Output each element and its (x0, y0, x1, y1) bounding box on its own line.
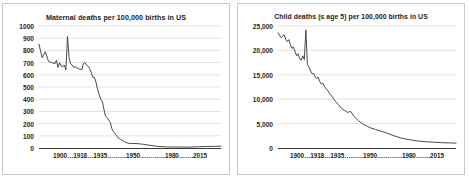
y-axis-tick-label: 400 (23, 96, 34, 103)
chart-panel-maternal: Maternal deaths per 100,000 births in US… (2, 3, 230, 175)
gridlines-maternal (39, 26, 221, 136)
x-axis-line-child (278, 148, 456, 149)
y-axis-labels-child: 25,00020,00015,00010,0005,0000 (238, 26, 275, 148)
y-axis-tick-label: 200 (23, 120, 34, 127)
x-axis-labels-maternal: 1900…1918…1935………1950…………1980…….2015 (33, 152, 227, 159)
x-axis-labels-child: 1900…1918…1935………1950…………1980…….2015 (272, 152, 462, 159)
x-axis-line-maternal (39, 148, 221, 149)
chart-panel-child: Child deaths (≤ age 5) per 100,000 birth… (237, 3, 465, 175)
y-axis-tick-label: 20,000 (253, 47, 273, 54)
line-chart-svg-maternal (39, 26, 221, 148)
y-axis-tick-label: 100 (23, 132, 34, 139)
line-chart-svg-child (278, 26, 456, 148)
y-axis-tick-label: 600 (23, 71, 34, 78)
y-axis-tick-label: 700 (23, 59, 34, 66)
y-axis-tick-label: 15,000 (253, 71, 273, 78)
y-axis-tick-label: 25,000 (253, 23, 273, 30)
chart-title-maternal: Maternal deaths per 100,000 births in US (3, 13, 229, 22)
y-axis-tick-label: 0 (269, 145, 273, 152)
y-axis-tick-label: 300 (23, 108, 34, 115)
plot-area-child (278, 26, 456, 148)
y-axis-tick-label: 900 (23, 35, 34, 42)
figure-container: Maternal deaths per 100,000 births in US… (0, 0, 469, 178)
y-axis-tick-label: 1000 (19, 23, 34, 30)
plot-area-maternal (39, 26, 221, 148)
y-axis-tick-label: 500 (23, 84, 34, 91)
y-axis-labels-maternal: 10009008007006005004003002001000 (3, 26, 36, 148)
data-line-child (278, 30, 456, 143)
y-axis-tick-label: 10,000 (253, 96, 273, 103)
y-axis-tick-label: 5,000 (256, 120, 273, 127)
y-axis-tick-label: 800 (23, 47, 34, 54)
y-axis-tick-label: 0 (30, 145, 34, 152)
chart-title-child: Child deaths (≤ age 5) per 100,000 birth… (238, 13, 464, 20)
gridlines-child (278, 26, 456, 124)
data-line-maternal (39, 36, 221, 147)
